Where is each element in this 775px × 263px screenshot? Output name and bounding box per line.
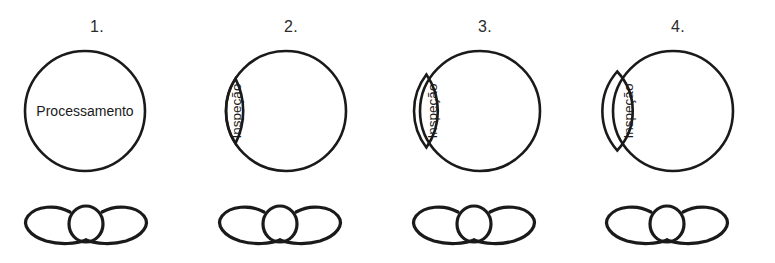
- process-circle-2: Inspeção: [206, 44, 376, 184]
- crescent-label-inspecao: Inspeção: [621, 84, 636, 139]
- process-stage-panel-1: 1. Processamento: [0, 0, 194, 263]
- process-circle-1: Processamento: [12, 44, 182, 184]
- process-circle-3: Inspeção: [400, 44, 570, 184]
- wing-center-circle: [69, 206, 103, 242]
- wing-nut-symbol-2: [212, 196, 352, 254]
- wing-center-circle: [263, 206, 297, 242]
- panel-number-2: 2.: [194, 18, 388, 36]
- panel-number-4: 4.: [581, 18, 775, 36]
- crescent-label-inspecao: Inspeção: [425, 84, 440, 139]
- panel-number-3: 3.: [388, 18, 582, 36]
- circle-label-processamento: Processamento: [36, 103, 133, 119]
- panel-number-1: 1.: [0, 18, 194, 36]
- process-circle-4: Inspeção: [593, 44, 763, 184]
- crescent-label-inspecao: Inspeção: [229, 84, 244, 139]
- diagram-canvas: 1. Processamento 2. Inspeção 3.: [0, 0, 775, 263]
- wing-center-circle: [650, 206, 684, 242]
- process-stage-panel-3: 3. Inspeção: [388, 0, 582, 263]
- process-stage-panel-4: 4. Inspeção: [581, 0, 775, 263]
- wing-nut-symbol-3: [406, 196, 546, 254]
- process-stage-panel-2: 2. Inspeção: [194, 0, 388, 263]
- wing-center-circle: [457, 206, 491, 242]
- wing-nut-symbol-4: [599, 196, 739, 254]
- wing-nut-symbol-1: [18, 196, 158, 254]
